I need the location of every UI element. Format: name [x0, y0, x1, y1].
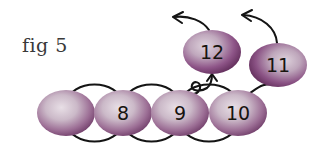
- node-11-label: 11: [266, 54, 290, 76]
- node-10-label: 10: [226, 102, 250, 124]
- node-11[interactable]: 11: [249, 43, 307, 87]
- diagram-canvas: 8 9 10 11 12 fig 5: [0, 0, 330, 150]
- node-blank-shape: [37, 90, 95, 136]
- node-9[interactable]: 9: [151, 90, 209, 136]
- node-blank[interactable]: [37, 90, 95, 136]
- node-12[interactable]: 12: [183, 30, 241, 74]
- node-10[interactable]: 10: [209, 90, 267, 136]
- node-8-label: 8: [117, 102, 129, 124]
- node-9-label: 9: [174, 102, 186, 124]
- node-12-label: 12: [200, 41, 224, 63]
- node-8[interactable]: 8: [94, 90, 152, 136]
- figure-caption: fig 5: [22, 34, 68, 56]
- edge-arrow-12-out: [174, 17, 209, 30]
- figure-5-diagram: 8 9 10 11 12 fig 5: [0, 0, 330, 150]
